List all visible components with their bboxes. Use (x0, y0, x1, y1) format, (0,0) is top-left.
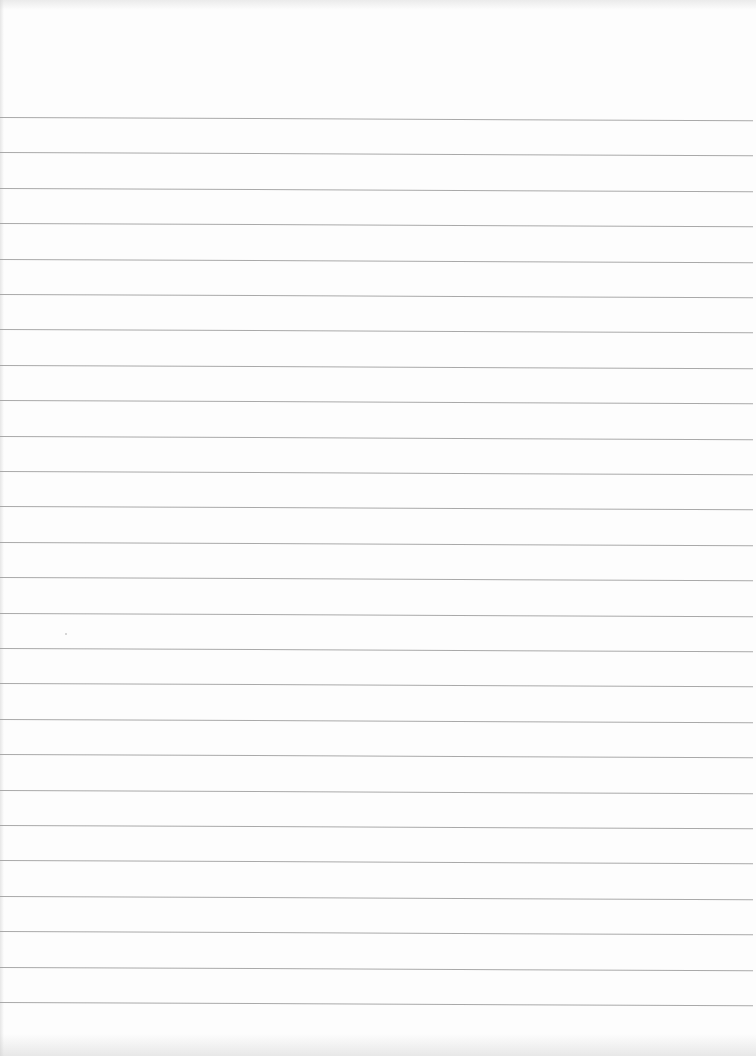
ruled-line (0, 967, 753, 971)
ruled-line (0, 860, 753, 864)
ruled-line (0, 1002, 753, 1006)
ruled-line (0, 719, 753, 723)
ruled-line (0, 188, 753, 192)
ruled-line (0, 329, 753, 333)
ruled-line (0, 400, 753, 404)
ruled-line (0, 294, 753, 298)
ruled-line (0, 648, 753, 652)
ruled-line (0, 506, 753, 510)
ruled-line (0, 223, 753, 227)
scan-speck (65, 633, 67, 635)
ruled-line (0, 931, 753, 935)
ruled-line (0, 117, 753, 121)
ruled-line (0, 365, 753, 369)
lined-paper-sheet (0, 0, 756, 1056)
ruled-line (0, 436, 753, 440)
ruled-line (0, 577, 753, 581)
ruled-line (0, 790, 753, 794)
ruled-lines (0, 0, 756, 1056)
ruled-line (0, 152, 753, 156)
ruled-line (0, 754, 753, 758)
scan-shadow-bottom (0, 1034, 756, 1056)
ruled-line (0, 683, 753, 687)
ruled-line (0, 259, 753, 263)
ruled-line (0, 896, 753, 900)
ruled-line (0, 825, 753, 829)
ruled-line (0, 613, 753, 617)
ruled-line (0, 542, 753, 546)
ruled-line (0, 471, 753, 475)
